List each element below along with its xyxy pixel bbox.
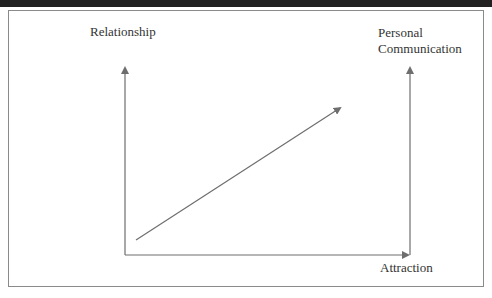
personal-communication-label-line1: Personal <box>378 25 462 41</box>
relationship-label: Relationship <box>90 24 156 40</box>
attraction-label: Attraction <box>380 260 433 276</box>
personal-communication-label-line2: Communication <box>378 41 462 57</box>
trend-arrow <box>136 108 340 240</box>
personal-communication-label: Personal Communication <box>378 25 462 57</box>
